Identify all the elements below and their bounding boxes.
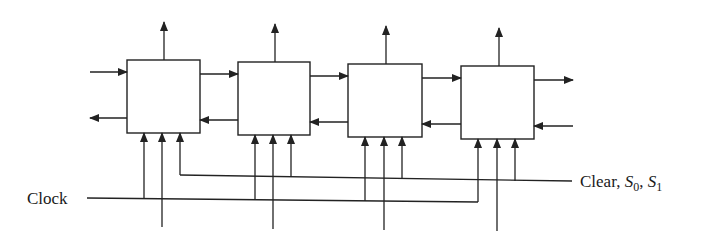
stage-2-box [238, 62, 310, 135]
shift-register-diagram: Clock Clear, S0, S1 [0, 0, 706, 241]
stage-1-box [127, 60, 200, 133]
stage-4-box [461, 66, 534, 139]
stage-3-box [348, 64, 422, 137]
control-bus [180, 133, 572, 181]
parallel-outputs [164, 22, 499, 66]
clock-bus [87, 133, 478, 202]
parallel-inputs [162, 133, 497, 231]
control-label: Clear, S0, S1 [580, 172, 662, 194]
clock-label: Clock [27, 189, 68, 208]
